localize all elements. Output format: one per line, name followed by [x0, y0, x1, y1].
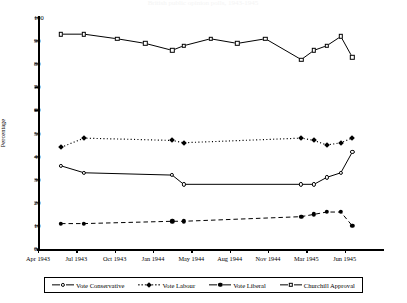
- legend-label: Churchill Approval: [304, 282, 355, 289]
- legend-marker-glyph: [218, 283, 222, 287]
- legend-item[interactable]: Churchill Approval: [280, 281, 355, 289]
- x-tick-mark: [115, 249, 116, 253]
- x-tick-label: Nov 1944: [255, 255, 280, 262]
- legend-label: Vote Labour: [162, 282, 195, 289]
- series-line: [61, 138, 352, 147]
- data-point-marker: [235, 41, 239, 45]
- legend-marker-glyph: [289, 283, 293, 287]
- x-tick-mark: [268, 249, 269, 253]
- data-point-marker: [263, 37, 267, 41]
- data-point-marker: [143, 41, 147, 45]
- data-point-marker: [59, 32, 63, 36]
- x-tick-label: Jan 1944: [142, 255, 165, 262]
- series-line: [61, 152, 352, 184]
- data-point-marker: [339, 34, 343, 38]
- x-tick-mark: [76, 249, 77, 253]
- x-tick-mark: [306, 249, 307, 253]
- legend-marker: [280, 281, 302, 289]
- data-point-marker: [312, 48, 316, 52]
- data-point-marker: [115, 37, 119, 41]
- chart-figure: British public opinion polls, 1943-1945 …: [0, 0, 407, 303]
- legend-marker-glyph: [61, 283, 65, 287]
- x-tick-label: Jun 1945: [333, 255, 356, 262]
- y-axis-label: Percentage: [0, 119, 6, 148]
- x-tick-label: Aug 1944: [217, 255, 242, 262]
- legend-marker: [138, 281, 160, 289]
- data-point-marker: [82, 32, 86, 36]
- legend-item[interactable]: Vote Labour: [138, 281, 195, 289]
- x-tick-mark: [191, 249, 192, 253]
- data-point-marker: [325, 44, 329, 48]
- data-point-marker: [299, 57, 303, 61]
- x-tick-label: Oct 1943: [103, 255, 126, 262]
- x-tick-mark: [38, 249, 39, 253]
- legend-marker-glyph: [147, 282, 153, 288]
- legend-item[interactable]: Vote Conservative: [52, 281, 124, 289]
- x-tick-label: Apr 1943: [26, 255, 50, 262]
- series-line: [61, 212, 352, 226]
- legend-label: Vote Liberal: [233, 282, 266, 289]
- chart-title: British public opinion polls, 1943-1945: [148, 0, 259, 7]
- x-tick-mark: [230, 249, 231, 253]
- x-axis-line: [37, 249, 384, 251]
- x-tick-label: Jul 1943: [66, 255, 88, 262]
- data-point-marker: [208, 37, 212, 41]
- data-point-marker: [350, 55, 354, 59]
- legend-marker: [52, 281, 74, 289]
- x-tick-label: May 1944: [178, 255, 204, 262]
- series-lines: [38, 18, 383, 249]
- series-line: [61, 34, 352, 59]
- x-tick-mark: [345, 249, 346, 253]
- legend-item[interactable]: Vote Liberal: [209, 281, 266, 289]
- legend-marker: [209, 281, 231, 289]
- x-tick-label: Mar 1945: [294, 255, 319, 262]
- data-point-marker: [181, 44, 185, 48]
- data-point-marker: [170, 48, 174, 52]
- plot-area: [38, 18, 383, 249]
- chart-legend: Vote ConservativeVote LabourVote Liberal…: [44, 277, 363, 293]
- x-tick-mark: [153, 249, 154, 253]
- legend-label: Vote Conservative: [76, 282, 124, 289]
